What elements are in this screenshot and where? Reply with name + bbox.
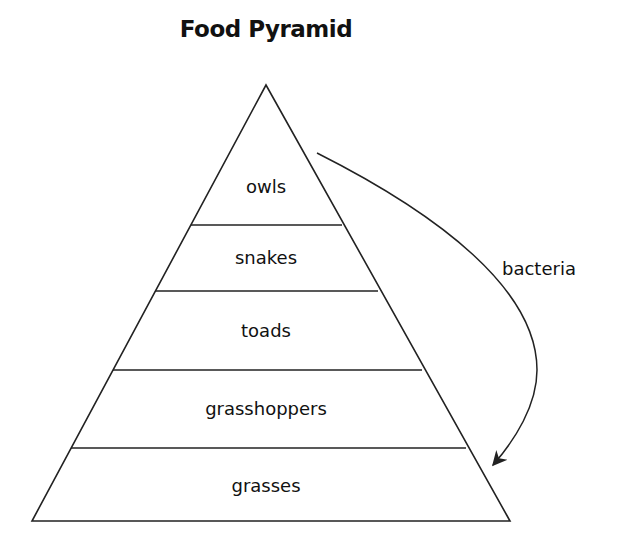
food-pyramid-diagram: Food Pyramid owls snakes toads grasshopp… [0,0,620,551]
pyramid-outline [32,85,510,521]
level-grasshoppers: grasshoppers [166,398,366,419]
level-grasses: grasses [166,475,366,496]
level-toads: toads [166,320,366,341]
level-snakes: snakes [166,247,366,268]
bacteria-label: bacteria [502,258,576,279]
level-owls: owls [166,176,366,197]
